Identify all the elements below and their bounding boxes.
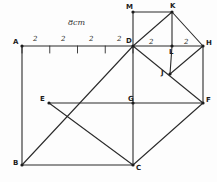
vertex-dots-group	[20, 10, 204, 166]
vertex-label-l: L	[169, 49, 173, 56]
ruler-ticks-group	[22, 46, 133, 53]
edge-J-H	[170, 46, 203, 74]
ruler-segment-label-0: 2	[33, 36, 37, 43]
ruler-segment-label-2: 2	[89, 36, 93, 43]
vertex-dot-c	[131, 163, 134, 166]
seg-label-DL: 2	[149, 39, 153, 46]
vertex-label-a: A	[13, 39, 18, 46]
geometry-figure: ABCDEFGHJKLM2222228cm	[0, 0, 217, 182]
vertex-label-e: E	[40, 96, 45, 103]
vertex-dot-e	[47, 101, 50, 104]
vertex-label-f: F	[206, 97, 211, 104]
vertex-label-k: K	[170, 3, 175, 10]
vertex-dot-k	[170, 10, 173, 13]
vertex-label-m: M	[126, 4, 133, 11]
vertex-label-c: C	[136, 165, 141, 172]
vertex-label-b: B	[13, 160, 18, 167]
edges-group	[22, 12, 203, 165]
vertex-dot-f	[201, 101, 204, 104]
vertex-dot-h	[201, 44, 204, 47]
vertex-dot-a	[20, 44, 23, 47]
seg-label-LH: 2	[184, 39, 188, 46]
vertex-label-h: H	[206, 40, 212, 47]
edge-B-D	[22, 46, 133, 165]
edge-C-F	[133, 103, 203, 165]
vertex-label-d: D	[126, 38, 132, 45]
edge-E-C	[49, 103, 133, 165]
vertex-dot-j	[168, 72, 171, 75]
vertex-label-j: J	[161, 70, 164, 77]
vertex-dot-b	[20, 163, 23, 166]
ruler-segment-label-3: 2	[117, 36, 121, 43]
ruler-segment-label-1: 2	[61, 36, 65, 43]
geometry-canvas	[0, 0, 217, 182]
vertex-label-g: G	[128, 96, 134, 103]
scale-total-label: 8cm	[68, 19, 85, 27]
